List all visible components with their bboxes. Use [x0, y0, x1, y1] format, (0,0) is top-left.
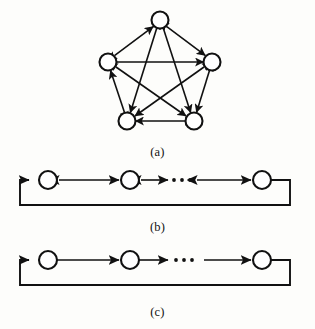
panel-bidirectional-ring: (b) — [0, 160, 315, 240]
node-ring-c-2[interactable] — [121, 251, 139, 269]
ellipsis-b — [172, 178, 192, 182]
caption-a: (a) — [0, 146, 315, 159]
diagram-fully-connected — [0, 0, 315, 138]
wrap-path-c — [20, 260, 290, 285]
ellipsis-dot — [172, 178, 176, 182]
node-group-pentagon — [100, 12, 221, 130]
diagram-unidirectional-ring — [0, 240, 315, 298]
node-bottom-left[interactable] — [119, 113, 136, 130]
ellipsis-dot — [190, 258, 194, 262]
edge-left-bottomright — [116, 67, 186, 116]
edge-top-right — [167, 27, 205, 56]
node-left[interactable] — [100, 54, 117, 71]
node-top[interactable] — [152, 12, 169, 29]
figure-root: (a) — [0, 0, 315, 329]
ellipsis-dot — [188, 178, 192, 182]
node-bottom-right[interactable] — [186, 113, 203, 130]
edge-bottomleft-left — [111, 71, 125, 113]
panel-unidirectional-ring: (c) — [0, 240, 315, 329]
node-ring-b-3[interactable] — [253, 171, 271, 189]
edge-right-bottomleft — [135, 67, 204, 116]
ellipsis-dot — [180, 178, 184, 182]
ellipsis-dot — [182, 258, 186, 262]
node-ring-c-1[interactable] — [39, 251, 57, 269]
edge-group-pentagram — [116, 28, 204, 116]
diagram-bidirectional-ring — [0, 160, 315, 215]
ellipsis-c — [174, 258, 194, 262]
caption-c: (c) — [0, 306, 315, 319]
ellipsis-dot — [174, 258, 178, 262]
node-ring-b-2[interactable] — [121, 171, 139, 189]
edge-left-top — [115, 27, 153, 56]
node-ring-b-1[interactable] — [39, 171, 57, 189]
wrap-path-b — [20, 180, 290, 205]
node-ring-c-3[interactable] — [253, 251, 271, 269]
edge-right-bottomright — [197, 71, 210, 113]
node-right[interactable] — [204, 54, 221, 71]
panel-fully-connected: (a) — [0, 0, 315, 160]
caption-b: (b) — [0, 221, 315, 234]
